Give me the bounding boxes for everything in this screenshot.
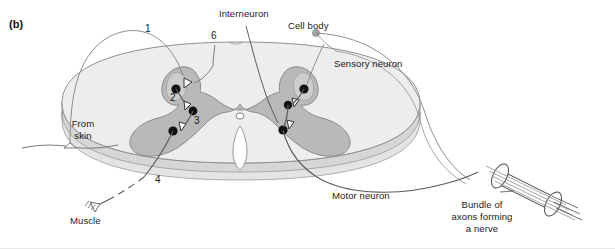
- label-bundle-line3: a nerve: [434, 223, 530, 234]
- callout-number-2: 2: [170, 92, 176, 103]
- label-interneuron: Interneuron: [219, 8, 269, 19]
- callout-number-4: 4: [155, 174, 161, 185]
- label-motor-neuron: Motor neuron: [332, 190, 390, 201]
- label-bundle-line1: Bundle of: [434, 199, 530, 210]
- label-bundle-line2: axons forming: [434, 211, 530, 222]
- motor-end-plate: [85, 201, 100, 212]
- label-muscle: Muscle: [70, 215, 101, 226]
- reflex-arc-figure: (b) 1 6 2 3 4 Interneuron Cell body Sens…: [0, 0, 615, 249]
- label-cell-body: Cell body: [288, 20, 329, 31]
- panel-tag: (b): [9, 18, 23, 30]
- callout-number-6: 6: [211, 30, 217, 41]
- callout-number-1: 1: [145, 23, 151, 34]
- label-sensory-neuron: Sensory neuron: [334, 58, 402, 69]
- leader-line-bundle: [500, 191, 514, 192]
- label-from-skin-line1: From: [61, 118, 105, 129]
- label-from-skin-line2: skin: [61, 130, 105, 141]
- callout-number-3: 3: [194, 115, 200, 126]
- central-canal: [236, 113, 244, 119]
